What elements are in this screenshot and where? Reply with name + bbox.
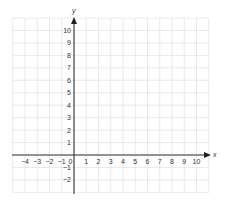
x-tick-label: 10 bbox=[193, 158, 201, 165]
y-tick-label: 4 bbox=[67, 102, 71, 109]
axes: x y bbox=[12, 7, 217, 194]
x-tick-label: 7 bbox=[158, 158, 162, 165]
y-tick-label: 2 bbox=[67, 127, 71, 134]
y-tick-label: 8 bbox=[67, 52, 71, 59]
x-axis-arrow-icon bbox=[204, 152, 211, 158]
x-tick-label: 4 bbox=[121, 158, 125, 165]
y-tick-label: 9 bbox=[67, 39, 71, 46]
x-tick-label: 5 bbox=[133, 158, 137, 165]
x-axis-label: x bbox=[212, 151, 217, 158]
x-tick-label: −2 bbox=[46, 158, 54, 165]
x-tick-label: −4 bbox=[21, 158, 29, 165]
x-tick-label: 8 bbox=[170, 158, 174, 165]
x-tick-labels: −4−3−2−1012345678910 bbox=[21, 158, 200, 165]
x-tick-label: 9 bbox=[182, 158, 186, 165]
coordinate-plane: x y −4−3−2−1012345678910 10987654321−1−2 bbox=[0, 0, 227, 210]
y-tick-label: −2 bbox=[63, 176, 71, 183]
x-tick-label: 1 bbox=[84, 158, 88, 165]
y-tick-label: 6 bbox=[67, 77, 71, 84]
x-tick-label: 3 bbox=[109, 158, 113, 165]
x-tick-label: 2 bbox=[97, 158, 101, 165]
y-tick-label: 3 bbox=[67, 114, 71, 121]
y-tick-label: 10 bbox=[63, 27, 71, 34]
x-tick-label: −3 bbox=[33, 158, 41, 165]
y-tick-label: 1 bbox=[67, 139, 71, 146]
x-tick-label: 6 bbox=[146, 158, 150, 165]
y-tick-label: 5 bbox=[67, 89, 71, 96]
y-tick-label: 7 bbox=[67, 64, 71, 71]
y-tick-label: −1 bbox=[63, 164, 71, 171]
y-axis-label: y bbox=[71, 7, 76, 15]
grid-lines bbox=[13, 18, 209, 192]
